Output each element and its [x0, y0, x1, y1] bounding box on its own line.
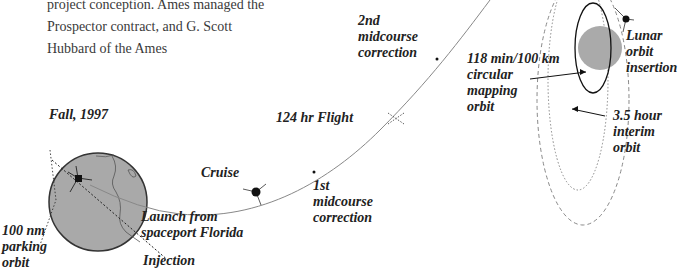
label-fall: Fall, 1997 — [49, 107, 108, 123]
spacecraft-icon — [243, 184, 266, 205]
label-first-mcc: 1st midcourse correction — [313, 178, 373, 226]
label-launch: Launch from spaceport Florida — [141, 209, 243, 241]
label-loi: Lunar orbit insertion — [626, 28, 677, 76]
earth-icon — [49, 153, 147, 251]
label-flight: 124 hr Flight — [276, 110, 353, 126]
label-second-mcc: 2nd midcourse correction — [358, 13, 418, 61]
moon-icon — [578, 26, 622, 70]
label-mapping-orbit: 118 min/100 km circular mapping orbit — [467, 51, 560, 115]
label-injection: Injection — [143, 253, 195, 269]
label-cruise: Cruise — [201, 165, 239, 181]
spacecraft-ghost-icon — [388, 113, 404, 124]
label-parking-orbit: 100 nm parking orbit — [2, 223, 47, 271]
label-interim-orbit: 3.5 hour interim orbit — [613, 108, 662, 156]
